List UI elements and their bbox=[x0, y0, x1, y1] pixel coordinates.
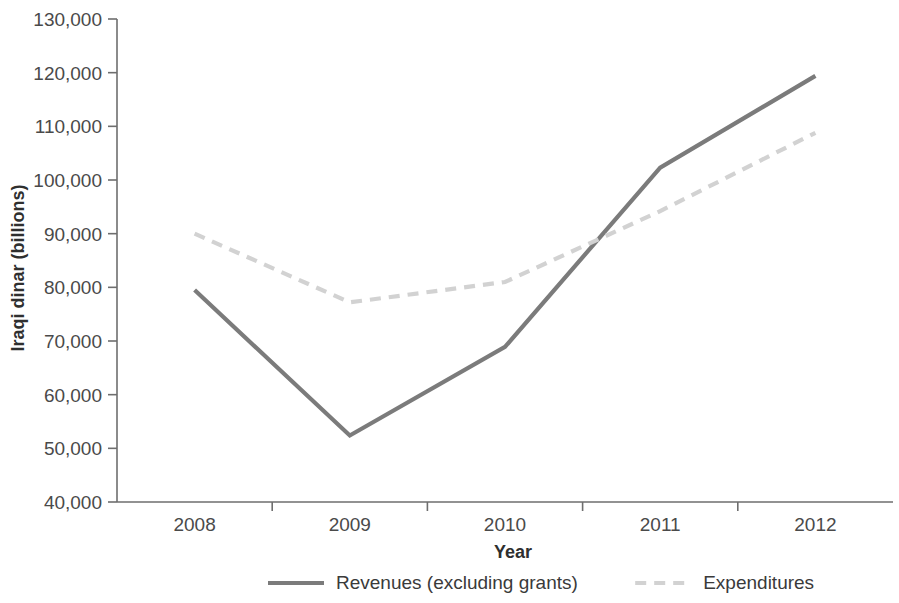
x-tick-label: 2011 bbox=[640, 514, 681, 535]
x-tick-label: 2012 bbox=[794, 514, 836, 535]
x-tick-label: 2009 bbox=[329, 514, 371, 535]
y-axis-title: Iraqi dinar (billions) bbox=[8, 184, 28, 351]
y-tick-label: 80,000 bbox=[44, 277, 102, 298]
y-tick-label: 70,000 bbox=[44, 331, 102, 352]
series-line-expenditures bbox=[195, 133, 816, 303]
line-chart: 40,00050,00060,00070,00080,00090,000100,… bbox=[0, 0, 899, 603]
y-tick-label: 100,000 bbox=[33, 170, 102, 191]
series-line-revenues bbox=[195, 76, 816, 436]
legend-label-revenues: Revenues (excluding grants) bbox=[336, 572, 578, 593]
x-axis-title: Year bbox=[494, 542, 532, 562]
y-tick-label: 110,000 bbox=[35, 116, 102, 137]
y-tick-label: 60,000 bbox=[44, 385, 102, 406]
y-tick-label: 120,000 bbox=[33, 63, 102, 84]
series-group bbox=[195, 76, 816, 436]
legend-label-expenditures: Expenditures bbox=[703, 572, 814, 593]
chart-canvas: 40,00050,00060,00070,00080,00090,000100,… bbox=[0, 0, 899, 603]
y-tick-label: 50,000 bbox=[44, 438, 102, 459]
y-tick-label: 90,000 bbox=[44, 224, 102, 245]
chart-legend: Revenues (excluding grants)Expenditures bbox=[268, 572, 814, 593]
y-tick-label: 130,000 bbox=[33, 9, 102, 30]
x-tick-label: 2010 bbox=[484, 514, 526, 535]
x-axis-ticks: 20082009201020112012 bbox=[173, 502, 836, 535]
y-tick-label: 40,000 bbox=[44, 492, 102, 513]
x-tick-label: 2008 bbox=[173, 514, 215, 535]
y-axis-ticks: 40,00050,00060,00070,00080,00090,000100,… bbox=[33, 9, 117, 513]
